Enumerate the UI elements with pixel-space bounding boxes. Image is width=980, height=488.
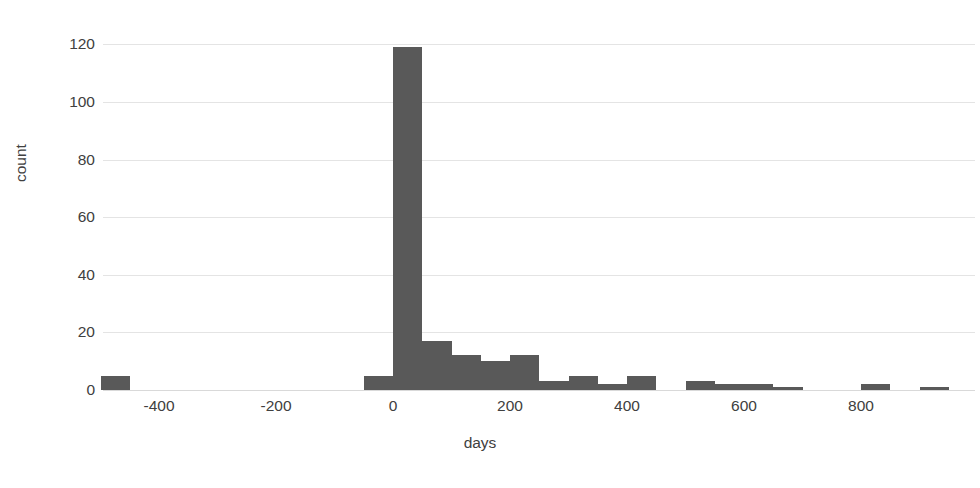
gridline — [103, 390, 975, 391]
histogram-bar — [627, 376, 656, 390]
histogram-bar — [598, 384, 627, 390]
histogram-bar — [364, 376, 393, 390]
histogram-bar — [773, 387, 802, 390]
y-axis-tick-labels: 020406080100120 — [0, 0, 95, 488]
x-axis-tick-label: 600 — [704, 398, 784, 414]
y-axis-tick-label: 100 — [25, 94, 95, 110]
y-axis-tick-label: 20 — [25, 324, 95, 340]
gridline — [103, 275, 975, 276]
histogram-bar — [452, 355, 481, 390]
histogram-bar — [686, 381, 715, 390]
histogram-bar — [481, 361, 510, 390]
histogram-chart: 020406080100120 -400-2000200400600800 co… — [0, 0, 980, 488]
histogram-bar — [715, 384, 744, 390]
histogram-bar — [744, 384, 773, 390]
histogram-bar — [101, 376, 130, 390]
x-axis-tick-label: 200 — [470, 398, 550, 414]
gridline — [103, 102, 975, 103]
y-axis-tick-label: 80 — [25, 152, 95, 168]
x-axis-tick-label: -400 — [119, 398, 199, 414]
y-axis-tick-label: 60 — [25, 209, 95, 225]
histogram-bar — [920, 387, 949, 390]
gridline — [103, 160, 975, 161]
y-axis-tick-label: 120 — [25, 36, 95, 52]
histogram-bar — [422, 341, 451, 390]
y-axis-title: count — [12, 144, 30, 182]
x-axis-tick-label: 800 — [821, 398, 901, 414]
plot-area — [103, 30, 975, 390]
x-axis-title-text: days — [464, 434, 497, 452]
histogram-bar — [569, 376, 598, 390]
gridline — [103, 44, 975, 45]
gridline — [103, 332, 975, 333]
x-axis-tick-label: -200 — [236, 398, 316, 414]
x-axis-tick-label: 0 — [353, 398, 433, 414]
x-axis-tick-label: 400 — [587, 398, 667, 414]
histogram-bar — [510, 355, 539, 390]
histogram-bar — [393, 47, 422, 390]
x-axis-title: days — [0, 434, 980, 452]
histogram-bar — [539, 381, 568, 390]
histogram-bar — [861, 384, 890, 390]
y-axis-tick-label: 40 — [25, 267, 95, 283]
gridline — [103, 217, 975, 218]
y-axis-tick-label: 0 — [25, 382, 95, 398]
